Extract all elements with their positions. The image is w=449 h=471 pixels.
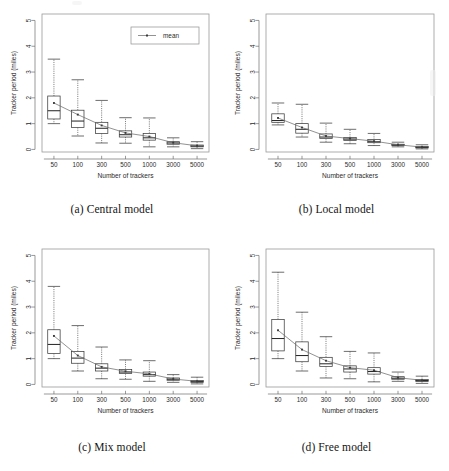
mean-marker (325, 135, 327, 137)
mean-marker (421, 146, 423, 148)
x-tick-label: 500 (120, 396, 131, 403)
mean-marker (325, 360, 327, 362)
x-tick-label: 100 (297, 161, 308, 168)
y-axis-title: Tracker period (miles) (234, 51, 242, 115)
boxplot-box (48, 59, 60, 123)
boxplot-box (320, 337, 332, 378)
y-tick-label: 1 (26, 356, 33, 360)
legend: mean (131, 27, 199, 44)
x-tick-label: 5000 (415, 396, 430, 403)
x-tick-label: 300 (96, 396, 107, 403)
y-tick-label: 5 (250, 18, 257, 22)
caption-central: (a) Central model (0, 203, 224, 215)
scan-artifact-right (430, 70, 436, 96)
scan-artifact-top (72, 1, 82, 5)
x-tick-label: 100 (297, 396, 308, 403)
boxplot-box (143, 118, 155, 147)
y-tick-label: 5 (26, 18, 33, 22)
boxplot-box (272, 272, 284, 358)
mean-marker (53, 335, 55, 337)
boxplot-box (368, 133, 380, 145)
boxplot-box (143, 361, 155, 382)
mean-marker (421, 379, 423, 381)
x-tick-label: 500 (345, 396, 356, 403)
mean-marker (373, 369, 375, 371)
x-tick-label: 1000 (367, 396, 382, 403)
x-axis-title: Number of trackers (97, 172, 154, 179)
boxplot-box (48, 286, 60, 358)
x-tick-label: 5000 (190, 396, 205, 403)
mean-marker (77, 355, 79, 357)
boxplot-box (72, 80, 84, 136)
caption-local: (b) Local model (224, 203, 449, 215)
mean-marker (125, 370, 127, 372)
y-axis-title: Tracker period (miles) (234, 286, 242, 350)
boxplot-box (72, 326, 84, 371)
mean-marker (277, 117, 279, 119)
mean-marker (397, 377, 399, 379)
y-tick-label: 4 (26, 44, 33, 48)
x-tick-label: 50 (50, 161, 58, 168)
boxplot-box (272, 103, 284, 125)
x-tick-label: 3000 (166, 161, 181, 168)
mean-marker (148, 136, 150, 138)
y-axis-title: Tracker period (miles) (10, 286, 18, 350)
y-tick-label: 3 (26, 70, 33, 74)
x-axis-title: Number of trackers (97, 407, 154, 414)
y-tick-label: 2 (250, 331, 257, 335)
boxplot-box (368, 353, 380, 382)
y-tick-label: 0 (250, 382, 257, 386)
x-tick-label: 100 (73, 161, 84, 168)
mean-marker (148, 373, 150, 375)
y-tick-label: 3 (250, 305, 257, 309)
y-tick-label: 2 (26, 96, 33, 100)
figure-four-panel-boxplots: 012345Tracker period (miles)501003005001… (0, 0, 449, 471)
y-tick-label: 2 (250, 96, 257, 100)
boxplot-box (344, 351, 356, 378)
x-tick-label: 1000 (367, 161, 382, 168)
mean-marker (53, 102, 55, 104)
boxplot-box (95, 100, 107, 143)
plot-area-mix: 012345Tracker period (miles)501003005001… (0, 235, 224, 440)
x-tick-label: 50 (274, 396, 282, 403)
plot-area-free: 012345Tracker period (miles)501003005001… (224, 235, 449, 440)
y-tick-label: 1 (26, 121, 33, 125)
x-tick-label: 300 (321, 161, 332, 168)
mean-marker (349, 367, 351, 369)
y-tick-label: 2 (26, 331, 33, 335)
caption-mix: (c) Mix model (0, 441, 224, 453)
y-tick-label: 4 (250, 279, 257, 283)
caption-free: (d) Free model (224, 441, 449, 453)
mean-marker (172, 142, 174, 144)
boxplot-svg-local: 012345Tracker period (miles)501003005001… (224, 0, 449, 205)
mean-marker (301, 127, 303, 129)
panel-central: 012345Tracker period (miles)501003005001… (0, 0, 224, 235)
mean-marker (125, 132, 127, 134)
y-tick-label: 4 (250, 44, 257, 48)
x-tick-label: 3000 (391, 396, 406, 403)
y-tick-label: 0 (250, 147, 257, 151)
y-tick-label: 3 (250, 70, 257, 74)
x-tick-label: 50 (274, 161, 282, 168)
plot-area-local: 012345Tracker period (miles)501003005001… (224, 0, 449, 205)
x-tick-label: 300 (321, 396, 332, 403)
x-tick-label: 1000 (142, 161, 157, 168)
y-tick-label: 5 (250, 253, 257, 257)
x-tick-label: 5000 (190, 161, 205, 168)
x-tick-label: 1000 (142, 396, 157, 403)
mean-marker (101, 366, 103, 368)
x-tick-label: 50 (50, 396, 58, 403)
y-tick-label: 1 (250, 121, 257, 125)
mean-marker (101, 124, 103, 126)
panel-mix: 012345Tracker period (miles)501003005001… (0, 235, 224, 471)
mean-marker (373, 140, 375, 142)
x-axis-title: Number of trackers (322, 172, 379, 179)
mean-marker (196, 145, 198, 147)
x-tick-label: 5000 (415, 161, 430, 168)
boxplot-svg-central: 012345Tracker period (miles)501003005001… (0, 0, 224, 205)
y-axis-title: Tracker period (miles) (10, 51, 18, 115)
mean-marker (77, 114, 79, 116)
boxplot-box (119, 360, 131, 379)
y-tick-label: 4 (26, 279, 33, 283)
plot-area-central: 012345Tracker period (miles)501003005001… (0, 0, 224, 205)
